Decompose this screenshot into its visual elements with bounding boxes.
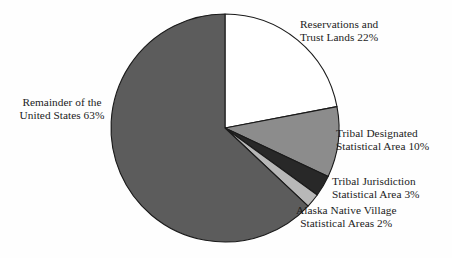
slice-label-reservations-line1: Reservations and <box>300 18 378 31</box>
slice-label-reservations-line2: Trust Lands 22% <box>300 31 378 44</box>
slice-label-tribal-jurisdiction: Tribal Jurisdiction Statistical Area 3% <box>332 175 420 202</box>
slice-label-reservations: Reservations and Trust Lands 22% <box>300 18 378 45</box>
slice-label-tribal-designated-line1: Tribal Designated <box>336 127 429 140</box>
slice-label-tribal-jurisdiction-line2: Statistical Area 3% <box>332 188 420 201</box>
slice-label-tribal-jurisdiction-line1: Tribal Jurisdiction <box>332 175 420 188</box>
pie-chart-figure: Reservations and Trust Lands 22% Remaind… <box>0 0 452 258</box>
slice-label-alaska-native-village: Alaska Native Village Statistical Areas … <box>296 204 397 231</box>
slice-label-tribal-designated: Tribal Designated Statistical Area 10% <box>336 127 429 154</box>
slice-label-remainder-line2: United States 63% <box>8 109 116 122</box>
slice-label-remainder: Remainder of the United States 63% <box>8 96 116 123</box>
slice-label-alaska-native-village-line1: Alaska Native Village <box>296 204 397 217</box>
slice-label-tribal-designated-line2: Statistical Area 10% <box>336 140 429 153</box>
slice-label-alaska-native-village-line2: Statistical Areas 2% <box>296 217 397 230</box>
slice-label-remainder-line1: Remainder of the <box>8 96 116 109</box>
